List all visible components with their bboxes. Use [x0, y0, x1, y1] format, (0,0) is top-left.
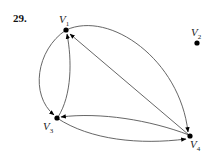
vertex-v3 [54, 115, 59, 120]
label-v2: V2 [191, 26, 201, 41]
label-v4: V4 [190, 138, 200, 153]
label-v3: V3 [43, 120, 53, 135]
edge-v1-v4 [66, 26, 188, 132]
edge-v1-v3 [39, 30, 66, 115]
label-v1: V1 [59, 13, 69, 28]
edge-v3-v4 [57, 118, 186, 141]
directed-graph [0, 0, 209, 161]
edge-v4-v1 [70, 34, 189, 135]
edge-v3-v1 [58, 34, 70, 117]
